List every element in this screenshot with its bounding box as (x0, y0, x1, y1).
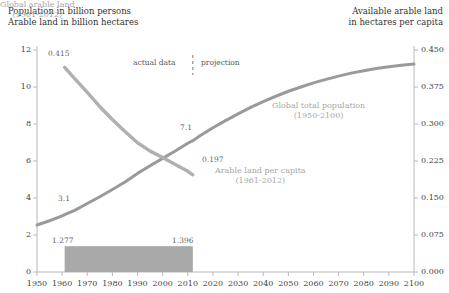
phase-label-actual: actual data (133, 58, 176, 67)
y-tick-label-left: 12 (4, 45, 31, 54)
series-label-arable-total-range: (1961-2012) (0, 10, 75, 20)
y-tick-label-right: 0.450 (421, 45, 444, 54)
y-tick-label-right: 0.225 (421, 156, 444, 165)
series-label-arable-total-name: Global arable land (0, 0, 75, 10)
phase-label-projection: projection (201, 58, 240, 67)
y-tick-label-left: 2 (4, 230, 31, 239)
series-label-per-capita: Arable land per capita (1961-2012) (215, 166, 306, 186)
y-tick-label-right: 0.000 (421, 267, 444, 276)
data-label-population-start: 3.1 (58, 194, 70, 203)
bar-global-arable-land (65, 246, 193, 272)
chart-canvas: Population in billion persons Arable lan… (0, 0, 449, 293)
line-arable-land-per-capita (65, 67, 193, 175)
y-tick-label-left: 10 (4, 82, 31, 91)
y-tick-label-right: 0.150 (421, 193, 444, 202)
series-label-population-range: (1950-2100) (272, 111, 365, 121)
line-global-total-population (37, 64, 414, 225)
series-label-per-capita-range: (1961-2012) (215, 176, 306, 186)
x-tick-label: 2100 (397, 279, 431, 288)
y-tick-label-right: 0.375 (421, 82, 444, 91)
y-tick-label-left: 8 (4, 119, 31, 128)
series-label-per-capita-name: Arable land per capita (215, 166, 306, 176)
series-label-population: Global total population (1950-2100) (272, 101, 365, 121)
data-label-bar-start: 1.277 (52, 236, 73, 245)
data-label-arable-end: 0.197 (202, 155, 223, 164)
data-label-bar-end: 1.396 (172, 236, 193, 245)
data-label-arable-start: 0.415 (48, 49, 69, 58)
y-tick-label-right: 0.300 (421, 119, 444, 128)
series-label-arable-total: Global arable land (1961-2012) (0, 0, 75, 20)
y-tick-label-left: 0 (4, 267, 31, 276)
y-tick-label-right: 0.075 (421, 230, 444, 239)
series-label-population-name: Global total population (272, 101, 365, 111)
plot-area (0, 0, 449, 293)
data-label-population-mid: 7.1 (180, 123, 192, 132)
y-tick-label-left: 6 (4, 156, 31, 165)
y-tick-label-left: 4 (4, 193, 31, 202)
